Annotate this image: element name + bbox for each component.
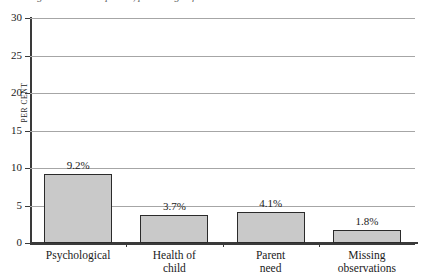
y-tick-label-15: 15 <box>0 125 22 136</box>
gridline-25 <box>30 56 415 57</box>
bar-value-label-1: 3.7% <box>134 200 214 212</box>
y-tick-label-10: 10 <box>0 162 22 173</box>
x-category-label-1: Health ofchild <box>119 249 229 273</box>
x-category-line: Missing <box>312 249 422 262</box>
x-category-line: Psychological <box>23 249 133 262</box>
x-category-line: Parent <box>216 249 326 262</box>
x-tick-0 <box>126 243 127 247</box>
figure-title-strip: Figure: reasons reported, percentage of … <box>0 0 422 7</box>
bar-3 <box>333 230 401 244</box>
x-category-label-3: Missingobservations <box>312 249 422 273</box>
bar-value-label-3: 1.8% <box>327 215 407 227</box>
x-category-line: observations <box>312 262 422 273</box>
x-category-line: need <box>216 262 326 273</box>
gridline-20 <box>30 93 415 94</box>
bar-value-label-0: 9.2% <box>38 159 118 171</box>
x-category-label-2: Parentneed <box>216 249 326 273</box>
bar-chart-figure: Figure: reasons reported, percentage of … <box>0 0 422 273</box>
bar-0 <box>44 174 112 243</box>
bar-value-label-2: 4.1% <box>231 197 311 209</box>
x-category-label-0: Psychological <box>23 249 133 262</box>
x-tick-2 <box>319 243 320 247</box>
gridline-30 <box>30 18 415 19</box>
y-tick-label-5: 5 <box>0 200 22 211</box>
y-tick-label-0: 0 <box>0 237 22 248</box>
y-tick-label-30: 30 <box>0 12 22 23</box>
plot-area <box>30 18 415 243</box>
y-tick-label-25: 25 <box>0 50 22 61</box>
x-category-line: child <box>119 262 229 273</box>
gridline-15 <box>30 131 415 132</box>
x-tick-1 <box>223 243 224 247</box>
y-tick-label-20: 20 <box>0 87 22 98</box>
bar-1 <box>140 215 208 243</box>
bar-2 <box>237 212 305 243</box>
figure-title: Figure: reasons reported, percentage of … <box>28 0 234 2</box>
x-category-line: Health of <box>119 249 229 262</box>
